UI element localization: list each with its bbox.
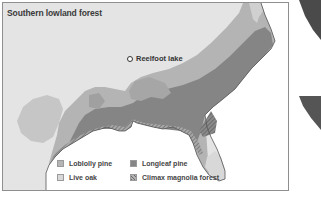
map-legend: Loblolly pine Live oak Longleaf pine Cli… bbox=[57, 160, 227, 188]
loblolly-pine-west bbox=[17, 95, 63, 143]
live-oak-swatch-icon bbox=[57, 174, 64, 181]
legend-item-live-oak: Live oak bbox=[57, 174, 97, 181]
map-title: Southern lowland forest bbox=[7, 8, 102, 18]
marker-label: Reelfoot lake bbox=[136, 54, 183, 63]
legend-label: Loblolly pine bbox=[69, 160, 112, 167]
legend-label: Climax magnolia forest bbox=[142, 174, 219, 181]
legend-label: Longleaf pine bbox=[142, 160, 188, 167]
legend-item-loblolly-pine: Loblolly pine bbox=[57, 160, 112, 167]
magnolia-swatch-icon bbox=[130, 174, 137, 181]
reelfoot-lake-marker: Reelfoot lake bbox=[127, 54, 183, 63]
circle-marker-icon bbox=[127, 56, 133, 62]
legend-item-longleaf-pine: Longleaf pine bbox=[130, 160, 188, 167]
legend-item-climax-magnolia: Climax magnolia forest bbox=[130, 174, 219, 181]
legend-label: Live oak bbox=[69, 174, 97, 181]
loblolly-swatch-icon bbox=[57, 160, 64, 167]
adjacent-image-fragment bbox=[297, 0, 321, 199]
longleaf-swatch-icon bbox=[130, 160, 137, 167]
